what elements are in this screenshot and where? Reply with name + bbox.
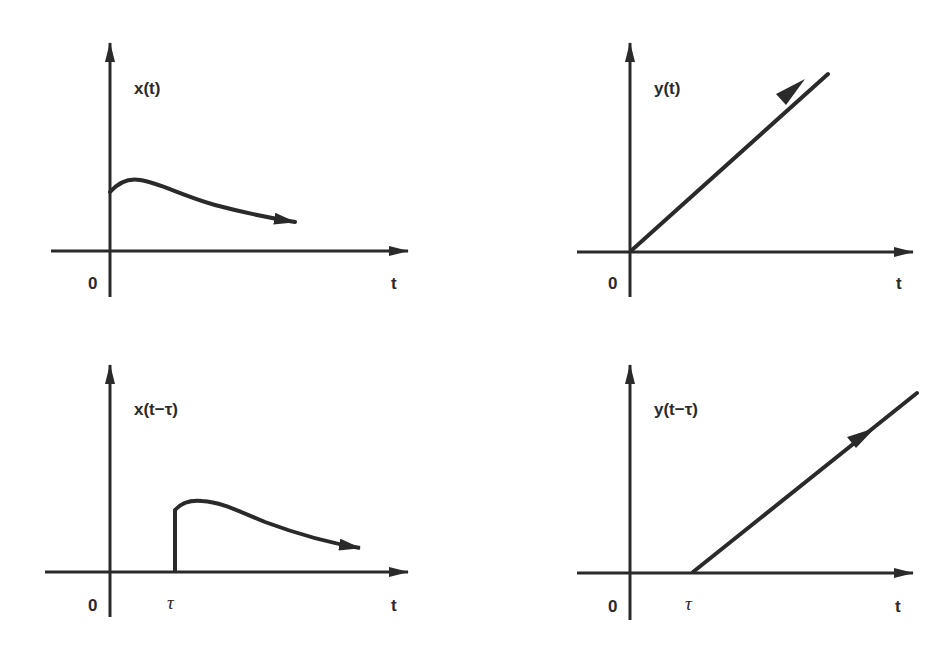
y-axis-label: y(t) [654,79,680,98]
x-axis-label: t [391,596,397,615]
shift-label: τ [685,593,693,614]
origin-label: 0 [88,274,97,293]
y-axis-label: x(t−τ) [134,400,178,419]
signal-curve [110,180,295,222]
x-axis-label: t [391,274,397,293]
x-axis-label: t [895,597,901,616]
panel-x-t-tau: x(t−τ) 0 τ t [45,365,408,617]
y-axis-label: y(t−τ) [654,400,698,419]
ramp-line [632,74,828,250]
time-shift-diagram: x(t) 0 t y(t) 0 t x(t−τ) 0 τ t y(t−τ) 0 … [0,0,950,652]
panel-y-t: y(t) 0 t [577,43,913,297]
y-axis-label: x(t) [134,79,160,98]
origin-label: 0 [608,597,617,616]
signal-curve [175,501,360,572]
origin-label: 0 [88,596,97,615]
shift-label: τ [167,592,175,613]
panel-x-t: x(t) 0 t [51,43,408,297]
ramp-line [693,393,917,572]
origin-label: 0 [608,274,617,293]
panel-y-t-tau: y(t−τ) 0 τ t [577,365,917,620]
x-axis-label: t [896,274,902,293]
